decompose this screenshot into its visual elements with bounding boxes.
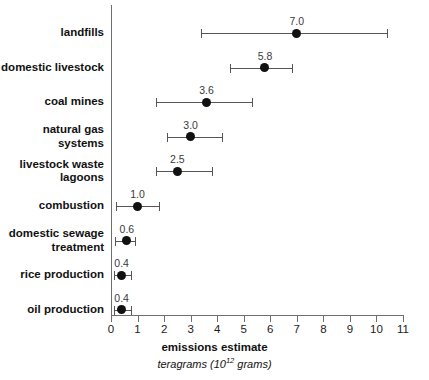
category-label: combustion — [0, 199, 104, 213]
data-point-value-label: 3.6 — [185, 84, 229, 96]
category-label: domestic sewage treatment — [0, 227, 104, 254]
error-bar-cap-low — [156, 98, 157, 107]
x-axis-subtitle-exponent: 12 — [226, 356, 234, 365]
data-point-value-label: 0.4 — [100, 257, 144, 269]
data-point-value-label: 1.0 — [116, 188, 160, 200]
error-bar-cap-low — [230, 64, 231, 73]
data-point-marker — [292, 29, 301, 38]
x-axis-line — [111, 315, 404, 316]
error-bar-cap-low — [114, 306, 115, 315]
x-axis-subtitle-suffix: grams) — [234, 358, 271, 370]
data-point-marker — [117, 271, 126, 280]
error-bar-cap-high — [135, 237, 136, 246]
error-bar-cap-high — [131, 306, 132, 315]
data-point-value-label: 0.6 — [105, 223, 149, 235]
data-point-marker — [133, 202, 142, 211]
error-bar-cap-low — [156, 167, 157, 176]
x-axis-title: emissions estimate — [0, 341, 429, 353]
x-axis-subtitle: teragrams (1012 grams) — [0, 356, 429, 370]
error-bar-cap-low — [167, 133, 168, 142]
error-bar-cap-low — [201, 29, 202, 38]
data-point-value-label: 7.0 — [275, 15, 319, 27]
data-point-marker — [122, 236, 131, 245]
error-bar-cap-high — [131, 271, 132, 280]
data-point-marker — [117, 305, 126, 314]
error-bar-line — [156, 171, 212, 172]
error-bar-cap-high — [212, 167, 213, 176]
data-point-marker — [186, 132, 195, 141]
error-bar-cap-low — [115, 237, 116, 246]
y-axis-line — [111, 5, 112, 316]
category-label: livestock waste lagoons — [0, 158, 104, 185]
category-label: domestic livestock — [0, 61, 104, 75]
error-bar-cap-high — [387, 29, 388, 38]
error-bar-cap-high — [252, 98, 253, 107]
category-label: oil production — [0, 303, 104, 317]
emissions-estimate-chart: 01234567891011 7.05.83.63.02.51.00.60.40… — [0, 0, 429, 380]
x-axis-subtitle-prefix: teragrams (10 — [157, 358, 225, 370]
category-label: coal mines — [0, 95, 104, 109]
error-bar-cap-high — [159, 202, 160, 211]
data-point-marker — [173, 167, 182, 176]
data-point-value-label: 2.5 — [155, 153, 199, 165]
data-point-value-label: 5.8 — [243, 50, 287, 62]
error-bar-cap-high — [292, 64, 293, 73]
x-tick-label: 11 — [383, 322, 423, 336]
error-bar-cap-high — [222, 133, 223, 142]
data-point-marker — [260, 63, 269, 72]
data-point-value-label: 0.4 — [100, 292, 144, 304]
data-point-marker — [202, 98, 211, 107]
data-point-value-label: 3.0 — [169, 119, 213, 131]
category-label: natural gas systems — [0, 123, 104, 150]
category-label: rice production — [0, 268, 104, 282]
error-bar-cap-low — [114, 271, 115, 280]
error-bar-cap-low — [116, 202, 117, 211]
category-label: landfills — [0, 26, 104, 40]
